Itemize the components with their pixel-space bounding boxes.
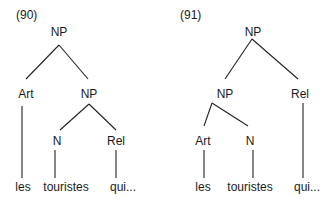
word-qui: qui... <box>294 180 320 194</box>
edge-np-rel <box>252 39 298 79</box>
edge-np-np <box>225 39 252 79</box>
tree-90: (90) NP Art NP N Rel les touristes qui..… <box>15 8 136 194</box>
node-art: Art <box>18 87 34 101</box>
example-number-91: (91) <box>180 8 201 22</box>
node-np-root: NP <box>51 25 68 39</box>
edge-np-n <box>60 104 89 130</box>
edge-np-art <box>26 45 59 79</box>
tree-91: (91) NP NP Rel Art N les touristes qui..… <box>180 8 320 194</box>
node-art: Art <box>195 134 211 148</box>
syntax-trees-canvas: (90) NP Art NP N Rel les touristes qui..… <box>0 0 336 206</box>
edge-np-np <box>59 45 88 79</box>
word-les: les <box>195 180 210 194</box>
node-np: NP <box>81 87 98 101</box>
edge-np-art <box>204 103 212 126</box>
edge-np-n <box>212 103 248 126</box>
node-rel: Rel <box>107 134 125 148</box>
node-n: N <box>53 134 62 148</box>
word-les: les <box>15 180 30 194</box>
word-qui: qui... <box>110 180 136 194</box>
node-n: N <box>246 134 255 148</box>
edge-np-rel <box>89 104 116 130</box>
node-np-root: NP <box>245 25 262 39</box>
word-touristes: touristes <box>43 180 88 194</box>
node-np: NP <box>217 87 234 101</box>
example-number-90: (90) <box>16 8 37 22</box>
node-rel: Rel <box>291 87 309 101</box>
word-touristes: touristes <box>227 180 272 194</box>
